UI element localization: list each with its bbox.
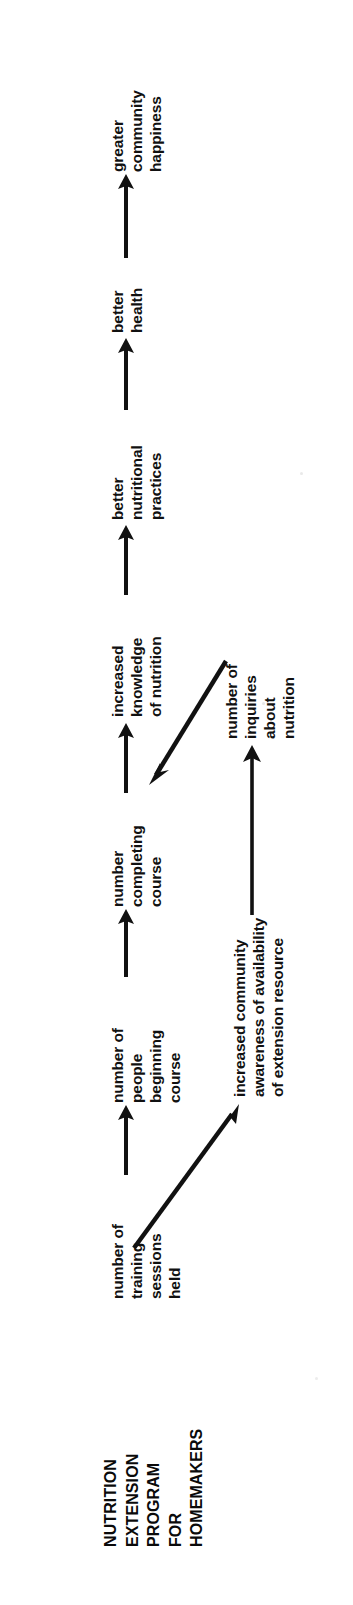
program-title-line-3: PROGRAM <box>143 1429 165 1547</box>
node-increased-knowledge-line-2: knowledge <box>127 636 146 717</box>
node-people-beginning-line-2: people <box>127 1028 146 1103</box>
node-number-inquiries: number of inquiries about nutrition <box>222 664 298 739</box>
arrow-completing-to-knowledge <box>112 721 140 793</box>
node-better-practices-line-3: practices <box>146 445 165 520</box>
diagram-page: NUTRITION EXTENSION PROGRAM FOR HOMEMAKE… <box>0 0 353 1605</box>
node-increased-knowledge-line-1: increased <box>108 636 127 717</box>
node-greater-happiness-line-1: greater <box>108 90 127 172</box>
scan-speckle <box>262 702 265 705</box>
node-better-health: better health <box>108 288 146 333</box>
arrow-inquiries-to-knowledge <box>148 657 230 787</box>
node-number-completing: number completing course <box>108 825 165 907</box>
arrow-people-to-completing <box>112 907 140 977</box>
node-greater-happiness: greater community happiness <box>108 90 165 172</box>
node-number-inquiries-line-2: inquiries <box>241 664 260 739</box>
node-community-awareness-line-1: increased community <box>230 918 249 1097</box>
node-better-health-line-1: better <box>108 288 127 333</box>
program-title: NUTRITION EXTENSION PROGRAM FOR HOMEMAKE… <box>100 1429 208 1547</box>
node-number-completing-line-2: completing <box>127 825 146 907</box>
node-number-completing-line-1: number <box>108 825 127 907</box>
arrow-awareness-to-inquiries <box>238 743 266 915</box>
scan-speckle <box>300 472 303 475</box>
arrow-sessions-to-awareness <box>132 1100 244 1250</box>
program-title-line-4: FOR <box>165 1429 187 1547</box>
node-greater-happiness-line-2: community <box>127 90 146 172</box>
program-title-line-5: HOMEMAKERS <box>186 1429 208 1547</box>
node-people-beginning-line-1: number of <box>108 1028 127 1103</box>
scan-speckle <box>315 1377 318 1380</box>
arrow-knowledge-to-practices <box>112 523 140 595</box>
node-number-inquiries-line-4: nutrition <box>279 664 298 739</box>
node-community-awareness-line-2: awareness of availability <box>249 918 268 1097</box>
node-people-beginning-line-3: beginning <box>146 1028 165 1103</box>
node-number-completing-line-3: course <box>146 825 165 907</box>
node-people-beginning: number of people beginning course <box>108 1028 184 1103</box>
node-training-sessions-line-1: number of <box>108 1224 127 1299</box>
node-better-practices: better nutritional practices <box>108 445 165 520</box>
program-title-line-2: EXTENSION <box>122 1429 144 1547</box>
diagram-canvas: NUTRITION EXTENSION PROGRAM FOR HOMEMAKE… <box>0 0 353 1605</box>
arrow-health-to-happiness <box>112 172 140 258</box>
program-title-line-1: NUTRITION <box>100 1429 122 1547</box>
arrow-practices-to-health <box>112 336 140 410</box>
node-community-awareness: increased community awareness of availab… <box>230 918 287 1097</box>
node-better-health-line-2: health <box>127 288 146 333</box>
node-community-awareness-line-3: of extension resource <box>268 918 287 1097</box>
node-better-practices-line-1: better <box>108 445 127 520</box>
node-people-beginning-line-4: course <box>165 1028 184 1103</box>
node-better-practices-line-2: nutritional <box>127 445 146 520</box>
node-greater-happiness-line-3: happiness <box>146 90 165 172</box>
